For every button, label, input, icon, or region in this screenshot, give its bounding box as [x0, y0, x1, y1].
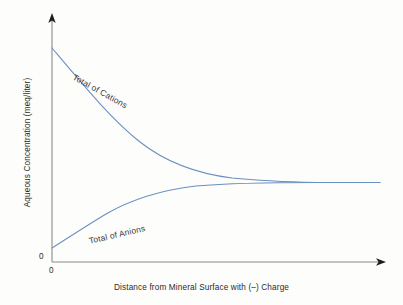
chart-figure: Aqueous Concentration (meq/liter) Distan… — [0, 0, 403, 305]
chart-canvas — [0, 0, 403, 305]
y-axis-label: Aqueous Concentration (meq/liter) — [23, 53, 32, 233]
x-axis-tick-zero: 0 — [49, 266, 54, 275]
y-axis-tick-zero: 0 — [39, 252, 44, 261]
series-line-cations — [52, 48, 380, 183]
x-axis-label: Distance from Mineral Surface with (–) C… — [0, 283, 403, 292]
